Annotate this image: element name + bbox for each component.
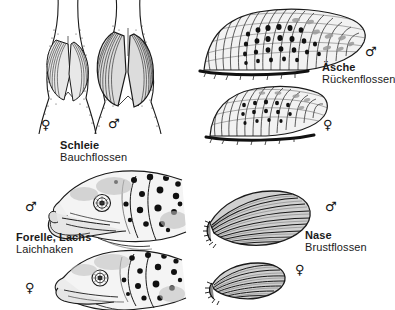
caption-schleie: Schleie Bauchflossen xyxy=(60,139,127,164)
aesche-male-symbol: ♂ xyxy=(365,45,377,58)
schleie-male-symbol: ♂ xyxy=(108,117,120,130)
schleie-male-pelvic-fins xyxy=(96,32,153,107)
nase-male-pectoral-fin xyxy=(203,191,310,248)
caption-forelle-lachs: Forelle, Lachs Laichhaken xyxy=(16,231,91,256)
schleie-female-symbol: ♀ xyxy=(41,118,51,131)
caption-schleie-species: Schleie xyxy=(60,139,127,151)
schleie-illustration xyxy=(18,0,178,135)
caption-nase-species: Nase xyxy=(305,229,367,241)
caption-nase: Nase Brustflossen xyxy=(305,229,367,254)
caption-schleie-part: Bauchflossen xyxy=(60,151,127,163)
caption-aesche: Äsche Rückenflossen xyxy=(322,61,395,86)
caption-forelle-lachs-part: Laichhaken xyxy=(16,243,91,255)
figure-schleie xyxy=(18,0,178,135)
caption-nase-part: Brustflossen xyxy=(305,241,367,253)
nase-female-pectoral-fin xyxy=(205,263,285,305)
caption-aesche-species: Äsche xyxy=(322,61,395,73)
aesche-female-symbol: ♀ xyxy=(323,118,333,131)
nase-female-symbol: ♀ xyxy=(295,263,305,276)
caption-forelle-lachs-species: Forelle, Lachs xyxy=(16,231,91,243)
aesche-female-dorsal-fin xyxy=(206,86,328,145)
forelle-female-symbol: ♀ xyxy=(25,281,35,294)
nase-male-symbol: ♂ xyxy=(325,200,337,213)
caption-aesche-part: Rückenflossen xyxy=(322,73,395,85)
forelle-male-symbol: ♂ xyxy=(25,200,37,213)
forelle-female-head xyxy=(55,250,186,310)
